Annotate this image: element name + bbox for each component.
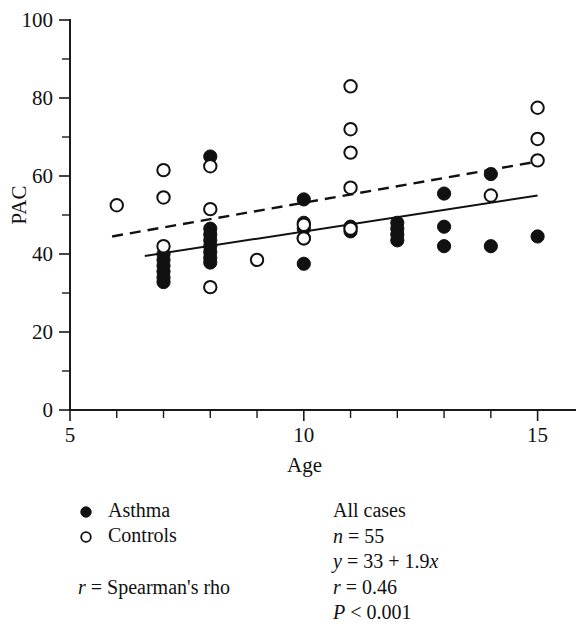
legend-item-controls: Controls: [78, 523, 177, 548]
data-point-asthma: [157, 275, 170, 288]
legend-label-asthma: Asthma: [100, 498, 170, 523]
stats-r: r = 0.46: [333, 575, 438, 601]
stats-r-value: = 0.46: [341, 576, 397, 598]
data-point-asthma: [531, 230, 544, 243]
axis-lines: [70, 20, 575, 410]
legend-item-asthma: Asthma: [78, 498, 177, 523]
legend-label-controls: Controls: [100, 523, 177, 548]
data-point-asthma: [204, 256, 217, 269]
data-point-controls: [531, 133, 543, 145]
y-tick-label: 100: [22, 8, 54, 32]
data-point-controls: [157, 191, 169, 203]
x-axis-title: Age: [287, 453, 322, 477]
stats-p-value: < 0.001: [345, 601, 411, 623]
data-point-asthma: [484, 167, 497, 180]
plot-data-points: [111, 80, 545, 293]
data-point-asthma: [297, 193, 310, 206]
data-point-controls: [204, 281, 216, 293]
data-point-controls: [251, 254, 263, 266]
data-point-controls: [298, 232, 310, 244]
data-point-controls: [157, 240, 169, 252]
open-circle-icon: [78, 526, 100, 546]
y-tick-label: 60: [32, 164, 53, 188]
data-point-controls: [204, 203, 216, 215]
data-point-controls: [531, 102, 543, 114]
stats-heading: All cases: [333, 498, 438, 524]
stats-n-value: = 55: [343, 525, 384, 547]
spearman-note-var: r: [78, 576, 86, 598]
stats-p: P < 0.001: [333, 600, 438, 626]
data-point-asthma: [297, 257, 310, 270]
data-point-asthma: [437, 187, 450, 200]
y-tick-label: 80: [32, 86, 53, 110]
chart-legend: Asthma Controls: [78, 498, 177, 548]
y-tick-label: 0: [43, 398, 54, 422]
data-point-controls: [531, 154, 543, 166]
data-point-asthma: [437, 220, 450, 233]
plot-axes: [70, 20, 575, 410]
y-tick-label: 40: [32, 242, 53, 266]
y-tick-label: 20: [32, 320, 53, 344]
data-point-controls: [485, 189, 497, 201]
stats-p-var: P: [333, 601, 345, 623]
data-point-controls: [298, 219, 310, 231]
filled-circle-icon: [78, 501, 100, 521]
plot-tick-labels: 02040608010051015: [22, 8, 549, 447]
x-tick-label: 5: [65, 423, 76, 447]
x-tick-label: 10: [293, 423, 314, 447]
data-point-controls: [344, 222, 356, 234]
y-axis-title: PAC: [7, 186, 31, 225]
plot-fit-lines: [112, 162, 538, 256]
data-point-asthma: [437, 240, 450, 253]
data-point-controls: [157, 164, 169, 176]
stats-r-var: r: [333, 576, 341, 598]
controls-fit-line: [112, 162, 533, 236]
spearman-note: r = Spearman's rho: [78, 576, 230, 599]
stats-block: All cases n = 55 y = 33 + 1.9x r = 0.46 …: [333, 498, 438, 626]
plot-axis-titles: AgePAC: [7, 186, 322, 477]
stats-equation-body: = 33 + 1.9: [342, 550, 430, 572]
data-point-controls: [344, 80, 356, 92]
x-tick-label: 15: [527, 423, 548, 447]
data-point-controls: [344, 182, 356, 194]
spearman-note-text: = Spearman's rho: [86, 576, 230, 598]
data-point-controls: [344, 123, 356, 135]
stats-equation-x: x: [429, 550, 438, 572]
data-point-controls: [344, 146, 356, 158]
scatter-plot: 02040608010051015 AgePAC: [0, 0, 586, 480]
stats-equation: y = 33 + 1.9x: [333, 549, 438, 575]
data-point-asthma: [391, 234, 404, 247]
stats-n: n = 55: [333, 524, 438, 550]
data-point-controls: [204, 160, 216, 172]
stats-n-var: n: [333, 525, 343, 547]
data-point-asthma: [484, 240, 497, 253]
data-point-controls: [111, 199, 123, 211]
stats-equation-y: y: [333, 550, 342, 572]
figure-container: 02040608010051015 AgePAC Asthma Controls…: [0, 0, 586, 626]
